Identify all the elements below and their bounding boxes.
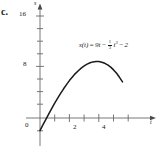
equation-fraction-one-third: 1 3 — [108, 40, 112, 51]
function-curve — [40, 62, 123, 131]
equation-equals: = — [89, 42, 94, 49]
graph-plot-area — [0, 0, 160, 156]
equation-term-3: 2 — [125, 42, 129, 49]
part-label: c. — [1, 7, 8, 17]
fraction-denominator: 3 — [108, 45, 112, 51]
equation-annotation: s(t) = 9t − 1 3 t3 − 2 — [79, 40, 128, 51]
x-axis-label: t — [150, 119, 152, 125]
y-tick-label-8: 8 — [23, 61, 27, 68]
origin-label: 0 — [25, 122, 29, 129]
equation-variable-cubed: t3 — [114, 42, 118, 49]
x-tick-label-2: 2 — [73, 124, 77, 131]
y-axis-arrowhead — [38, 4, 43, 10]
equation-minus-1: − — [102, 42, 107, 49]
x-tick-label-4: 4 — [102, 124, 106, 131]
y-tick-label-16: 16 — [19, 11, 26, 18]
equation-exponent: 3 — [116, 39, 118, 44]
equation-term-1: 9t — [95, 42, 100, 49]
equation-lhs: s(t) — [79, 42, 88, 49]
figure-container: c. s t 16 8 0 2 4 s(t) = 9t − 1 3 t3 − 2 — [0, 0, 160, 156]
y-axis-label: s — [34, 0, 36, 6]
equation-minus-2: − — [119, 42, 124, 49]
